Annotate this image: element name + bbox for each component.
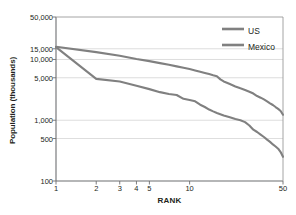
legend-item-us: US bbox=[248, 26, 260, 36]
legend-swatches bbox=[222, 29, 244, 45]
legend-item-mexico: Mexico bbox=[248, 42, 275, 52]
rank-size-chart: Population (thousands) RANK 50,00015,000… bbox=[0, 0, 296, 215]
data-series bbox=[56, 47, 283, 157]
